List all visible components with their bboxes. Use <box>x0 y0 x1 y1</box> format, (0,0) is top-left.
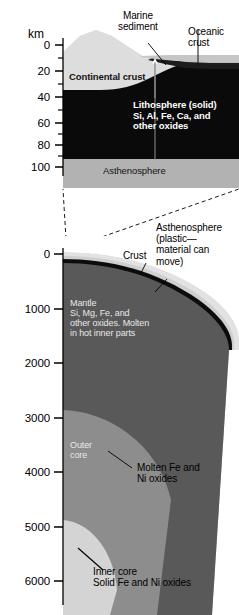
oceanic-crust-label: Oceanic crust <box>188 26 224 48</box>
top-axis-label-60: 60 <box>24 117 50 130</box>
top-axis-label-20: 20 <box>24 65 50 78</box>
bottom-crust-label: Crust <box>123 250 146 261</box>
top-axis-label-80: 80 <box>24 139 50 152</box>
mantle-label: Mantle Si, Mg, Fe, and other oxides. Mol… <box>70 298 149 338</box>
lithosphere-label: Lithosphere (solid) Si, Al, Fe, Ca, and … <box>133 100 217 132</box>
bottom-axis-label-6000: 6000 <box>8 575 50 588</box>
top-axis-label-0: 0 <box>24 39 50 52</box>
top-axis-label-100: 100 <box>18 161 50 174</box>
bottom-asthenosphere-label: Asthenosphere (plastic— material can mov… <box>156 222 222 267</box>
connector-left <box>63 189 66 239</box>
continental-crust-label: Continental crust <box>69 72 145 83</box>
top-panel-axis <box>55 38 63 176</box>
inner-core-label: Inner core Solid Fe and Ni oxides <box>93 566 191 588</box>
bottom-axis-label-5000: 5000 <box>8 521 50 534</box>
bottom-axis-label-1000: 1000 <box>8 303 50 316</box>
bottom-panel-axis <box>54 248 63 605</box>
outer-core-description: Molten Fe and Ni oxides <box>137 462 200 484</box>
bottom-axis-label-4000: 4000 <box>8 466 50 479</box>
earth-cross-section-figure: km 0 20 40 60 80 100 Marine sediment Oce… <box>0 0 239 615</box>
bottom-axis-label-0: 0 <box>24 248 50 261</box>
marine-sediment-label: Marine sediment <box>118 10 158 32</box>
top-asthenosphere-label: Asthenosphere <box>103 166 166 177</box>
outer-core-label: Outer core <box>70 440 92 460</box>
bottom-axis-label-3000: 3000 <box>8 412 50 425</box>
bottom-axis-label-2000: 2000 <box>8 357 50 370</box>
top-axis-label-40: 40 <box>24 91 50 104</box>
